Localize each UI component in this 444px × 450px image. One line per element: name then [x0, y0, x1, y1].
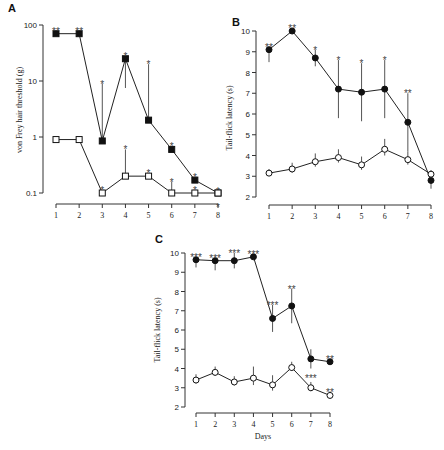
data-point — [308, 385, 314, 391]
data-point — [359, 162, 365, 168]
x-tick-label: 2 — [213, 420, 217, 429]
significance-marker: * — [336, 55, 340, 66]
y-tick-label: 10 — [170, 249, 179, 258]
data-point — [428, 177, 434, 183]
data-point — [382, 146, 388, 152]
data-point — [250, 375, 256, 381]
data-point — [122, 173, 128, 179]
data-point — [289, 166, 295, 172]
significance-marker: * — [383, 55, 387, 66]
data-point — [312, 55, 318, 61]
data-point — [231, 379, 237, 385]
panel-b: B2345678910Tail-flick latency (s)1234567… — [225, 16, 434, 221]
x-tick-label: 6 — [290, 420, 294, 429]
y-tick-label: 3 — [246, 172, 251, 181]
panel-letter: A — [8, 2, 16, 14]
y-tick-label: 2 — [175, 403, 180, 412]
x-tick-label: 2 — [77, 211, 81, 220]
data-point — [382, 86, 388, 92]
significance-marker: *** — [209, 253, 221, 264]
significance-marker: *** — [228, 248, 240, 259]
y-axis-title: Tail-flick latency (s) — [153, 297, 162, 363]
y-tick-label: 8 — [175, 288, 180, 297]
data-point — [215, 190, 221, 196]
y-tick-label: 10 — [241, 27, 250, 36]
x-tick-label: 3 — [232, 420, 236, 429]
data-point — [266, 170, 272, 176]
y-tick-label: 2 — [246, 193, 251, 202]
significance-marker: ** — [75, 26, 83, 37]
panel-c: C2345678910Tail-flick latency (s)1234567… — [153, 233, 334, 441]
x-tick-label: 7 — [193, 211, 197, 220]
y-tick-label: 10 — [28, 77, 37, 86]
significance-marker: * — [313, 45, 317, 56]
significance-marker: * — [123, 51, 127, 62]
y-axis-title: Tail-flick latency (s) — [225, 85, 234, 151]
data-point — [99, 138, 105, 144]
x-tick-label: 6 — [170, 211, 174, 220]
y-tick-label: 3 — [175, 384, 180, 393]
significance-marker: * — [216, 202, 220, 213]
significance-marker: ** — [326, 387, 334, 398]
data-point — [335, 86, 341, 92]
data-point — [146, 117, 152, 123]
data-point — [169, 190, 175, 196]
y-tick-label: 5 — [175, 345, 180, 354]
significance-marker: * — [147, 168, 151, 179]
x-tick-label: 3 — [100, 211, 104, 220]
significance-marker: ** — [52, 26, 60, 37]
significance-marker: *** — [267, 300, 279, 311]
data-point — [289, 365, 295, 371]
significance-marker: * — [193, 185, 197, 196]
significance-marker: * — [170, 177, 174, 188]
y-tick-label: 7 — [175, 307, 180, 316]
panel-a: A0.1110100von Frey hair threshold (g)123… — [8, 2, 221, 220]
y-tick-label: 1 — [33, 133, 38, 142]
x-tick-label: 4 — [336, 212, 340, 221]
significance-marker: * — [360, 58, 364, 69]
panel-letter: B — [232, 16, 240, 28]
significance-marker: * — [100, 185, 104, 196]
data-point — [76, 137, 82, 143]
data-point — [312, 159, 318, 165]
data-point — [212, 369, 218, 375]
x-tick-label: 6 — [383, 212, 387, 221]
data-point — [270, 382, 276, 388]
significance-marker: *** — [190, 252, 202, 263]
significance-marker: ** — [326, 354, 334, 365]
significance-marker: * — [123, 144, 127, 155]
significance-marker: * — [100, 79, 104, 90]
data-point — [270, 315, 276, 321]
significance-marker: ** — [265, 42, 273, 53]
data-point — [53, 137, 59, 143]
x-tick-label: 4 — [251, 420, 255, 429]
x-tick-label: 4 — [123, 211, 127, 220]
x-tick-label: 5 — [271, 420, 275, 429]
y-tick-label: 8 — [246, 69, 251, 78]
x-axis-title: Days — [255, 432, 271, 441]
y-tick-label: 9 — [246, 48, 251, 57]
x-tick-label: 5 — [360, 212, 364, 221]
y-tick-label: 4 — [246, 152, 251, 161]
x-tick-label: 7 — [406, 212, 410, 221]
significance-marker: ** — [288, 23, 296, 34]
significance-marker: * — [170, 141, 174, 152]
data-point — [335, 155, 341, 161]
x-tick-label: 1 — [194, 420, 198, 429]
x-tick-label: 5 — [147, 211, 151, 220]
data-point — [193, 377, 199, 383]
y-tick-label: 7 — [246, 89, 251, 98]
y-tick-label: 6 — [246, 110, 251, 119]
significance-marker: * — [147, 59, 151, 70]
significance-marker: ** — [288, 284, 296, 295]
significance-marker: ** — [404, 88, 412, 99]
significance-marker: * — [193, 172, 197, 183]
x-tick-label: 2 — [290, 212, 294, 221]
y-tick-label: 5 — [246, 131, 251, 140]
x-tick-label: 8 — [429, 212, 433, 221]
x-tick-label: 3 — [313, 212, 317, 221]
data-point — [289, 303, 295, 309]
y-tick-label: 100 — [24, 21, 38, 30]
y-axis-title: von Frey hair threshold (g) — [15, 67, 24, 154]
significance-marker: *** — [248, 249, 260, 260]
